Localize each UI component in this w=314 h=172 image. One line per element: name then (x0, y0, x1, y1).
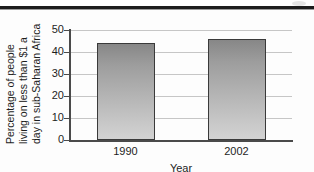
y-axis-tick-label: 20 (36, 90, 64, 101)
y-axis-title-line-2: living on less than $1 a (18, 37, 29, 144)
y-axis-tick-label: 50 (36, 24, 64, 35)
y-axis-title: Percentage of people living on less than… (4, 26, 56, 146)
chart-page: Percentage of people living on less than… (0, 0, 314, 172)
y-axis-tick-label-text: 20 (40, 90, 64, 101)
y-axis-tick-label-text: 10 (40, 112, 64, 123)
plot-area (70, 30, 292, 140)
y-axis-tick-label-text: 50 (40, 24, 64, 35)
x-axis-category-label: 1990 (96, 145, 156, 157)
bar-chart: Percentage of people living on less than… (0, 12, 314, 172)
y-axis-tick-label-text: 40 (40, 46, 64, 57)
y-axis-tick-label-text: 30 (40, 68, 64, 79)
y-axis-tick-label: 10 (36, 112, 64, 123)
y-axis-tick-label: 30 (36, 68, 64, 79)
bar-1990 (97, 43, 155, 140)
y-axis-tick-label: 40 (36, 46, 64, 57)
y-axis-title-line-1: Percentage of people (5, 44, 16, 144)
x-axis-category-label: 2002 (207, 145, 267, 157)
x-axis-line (69, 140, 293, 142)
bar-2002 (208, 39, 266, 140)
y-axis-tick-label: 0 (36, 134, 64, 145)
y-axis-tick-label-text: 0 (40, 134, 64, 145)
top-divider-rule-shadow (0, 9, 314, 10)
y-axis-title-line-3: day in sub-Saharan Africa (31, 24, 42, 144)
x-axis-title: Year (70, 162, 292, 172)
